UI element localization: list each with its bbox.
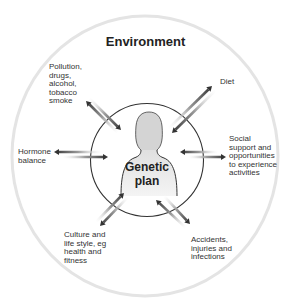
arrow-pair-culture xyxy=(96,193,128,226)
outward-arrowhead-icon xyxy=(180,149,185,155)
factor-label-social: Social support and opportunities to expe… xyxy=(229,135,277,178)
inward-arrow-shaft xyxy=(89,98,117,126)
inward-arrow-shaft xyxy=(176,90,216,130)
factor-label-diet: Diet xyxy=(220,78,234,87)
arrow-pair-accidents xyxy=(156,196,190,228)
diagram: Environment Genetic plan Pollution, drug… xyxy=(0,0,291,308)
factor-label-hormone: Hormone balance xyxy=(18,148,51,165)
inward-arrowhead-icon xyxy=(103,154,108,160)
arrow-pair-pollution xyxy=(86,98,121,133)
environment-title: Environment xyxy=(0,34,291,49)
outward-arrowhead-icon xyxy=(54,149,59,155)
outward-arrow-shaft xyxy=(90,105,118,133)
arrow-pair-hormone xyxy=(54,149,108,160)
genetic-plan-label: Genetic plan xyxy=(117,160,177,188)
outward-arrow-shaft xyxy=(168,89,208,129)
inward-arrowhead-icon xyxy=(221,154,226,160)
factor-label-accidents: Accidents, injuries and infections xyxy=(191,236,232,262)
factor-label-culture: Culture and life style, eg health and fi… xyxy=(64,231,106,265)
factor-label-pollution: Pollution, drugs, alcohol, tobacco smoke xyxy=(49,63,82,106)
